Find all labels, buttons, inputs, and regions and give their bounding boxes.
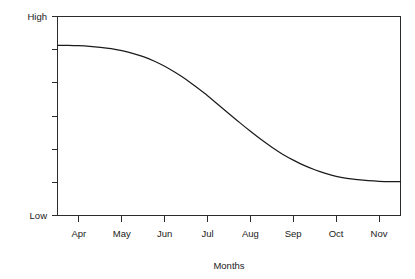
x-tick-label-may: May [113, 228, 131, 239]
chart-container: High Low Apr May Jun Jul Aug Sep Oct Nov… [0, 0, 415, 279]
y-axis-label-low: Low [30, 210, 48, 221]
line-chart: High Low Apr May Jun Jul Aug Sep Oct Nov… [0, 0, 415, 279]
x-tick-label-jul: Jul [201, 228, 213, 239]
x-axis-title: Months [213, 260, 244, 271]
y-axis-label-high: High [27, 11, 47, 22]
x-tick-label-nov: Nov [371, 228, 388, 239]
x-tick-label-aug: Aug [242, 228, 259, 239]
x-tick-label-oct: Oct [329, 228, 344, 239]
x-tick-label-apr: Apr [72, 228, 87, 239]
x-tick-label-jun: Jun [157, 228, 172, 239]
x-tick-label-sep: Sep [285, 228, 302, 239]
